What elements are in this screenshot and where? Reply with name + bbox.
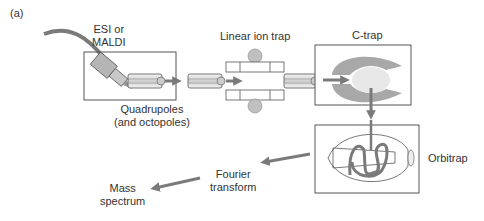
quadrupole-1: [128, 74, 165, 88]
fourier-label-line1: Fourier: [210, 168, 256, 181]
orbitrap-label: Orbitrap: [428, 152, 468, 165]
quadrupole-2: [188, 74, 225, 88]
source-label: ESI or MALDI: [92, 23, 126, 49]
mass-spectrum-label-line2: spectrum: [100, 195, 145, 208]
quadrupole-3: [284, 74, 319, 88]
panel-label: (a): [10, 7, 23, 20]
fourier-label: Fourier transform: [210, 168, 256, 194]
arrow-to-spectrum: [155, 178, 200, 188]
source-label-line2: MALDI: [92, 36, 126, 49]
mass-spectrum-label-line1: Mass: [100, 182, 145, 195]
fourier-label-line2: transform: [210, 181, 256, 194]
quadrupoles-label-line1: Quadrupoles: [114, 103, 190, 116]
mass-spectrum-label: Mass spectrum: [100, 182, 145, 208]
orbitrap: [315, 120, 419, 193]
quadrupoles-label: Quadrupoles (and octopoles): [114, 103, 190, 129]
linear-ion-trap-label: Linear ion trap: [220, 30, 290, 43]
source-label-line1: ESI or: [92, 23, 126, 36]
linear-ion-trap: [226, 49, 284, 113]
c-trap: [315, 45, 411, 115]
c-trap-label: C-trap: [352, 29, 383, 42]
arrow-to-fourier: [265, 154, 310, 162]
quadrupoles-label-line2: (and octopoles): [114, 116, 190, 129]
